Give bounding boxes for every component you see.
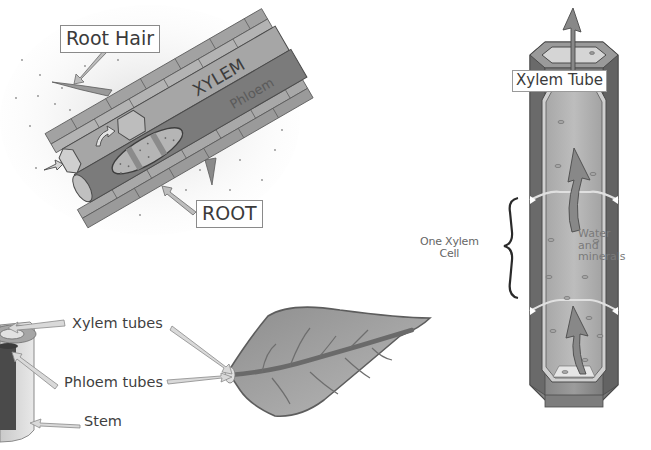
stem-pointer <box>30 419 80 428</box>
xylem-tube-title: Xylem Tube <box>512 70 607 92</box>
plant-vascular-diagram: XYLEM Phloem <box>0 0 651 450</box>
one-xylem-cell-label: One Xylem Cell <box>420 236 479 259</box>
xylem-tube-illustration <box>504 8 618 407</box>
one-xylem-cell-line2: Cell <box>420 248 479 260</box>
phloem-tubes-label: Phloem tubes <box>64 375 163 390</box>
xylem-tubes-label: Xylem tubes <box>72 316 163 331</box>
xylem-tubes-stem-pointer <box>8 320 65 333</box>
one-xylem-cell-brace <box>504 198 518 298</box>
water-and-minerals-label: Water and minerals <box>578 228 626 263</box>
one-xylem-cell-line1: One Xylem <box>420 236 479 248</box>
leaf-illustration <box>225 307 430 416</box>
water-line3: minerals <box>578 251 626 263</box>
stem-label: Stem <box>84 414 122 429</box>
water-line1: Water <box>578 228 626 240</box>
xylem-tubes-leaf-pointer <box>170 326 232 374</box>
stem-illustration <box>0 322 36 442</box>
phloem-tubes-leaf-pointer <box>167 373 232 384</box>
root-hair-label: Root Hair <box>60 25 160 53</box>
root-label: ROOT <box>196 200 263 228</box>
